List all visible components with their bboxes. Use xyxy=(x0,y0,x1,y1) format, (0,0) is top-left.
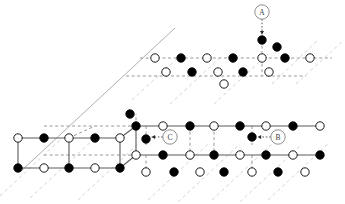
atom-r1-1 xyxy=(151,54,159,62)
atom-m1-6 xyxy=(262,122,270,130)
atom-r2-1 xyxy=(162,68,170,76)
atom-m1-3 xyxy=(186,122,194,130)
atom-m1-7 xyxy=(289,122,297,130)
callout-label-b: B xyxy=(275,133,280,142)
atom-m2-6 xyxy=(262,151,270,159)
figure-root: ABC xyxy=(0,0,345,204)
atom-m2-4 xyxy=(210,151,218,159)
callout-b: B xyxy=(258,130,285,144)
atom-m1-8 xyxy=(316,122,324,130)
guide-line-diag-upper-2 xyxy=(170,56,222,104)
callout-arrowhead-b xyxy=(258,135,261,139)
guide-line-diag-upper-5 xyxy=(296,40,344,84)
guide-line-diag-faint-3 xyxy=(78,142,140,200)
atom-m3-4 xyxy=(220,168,228,176)
callout-label-a: A xyxy=(259,8,265,17)
atom-r1-7 xyxy=(306,54,314,62)
lattice-diagram: ABC xyxy=(0,0,345,204)
atom-r1-6 xyxy=(281,54,289,62)
atom-m3-3 xyxy=(196,168,204,176)
guide-line-upper-solid-edge xyxy=(20,28,175,172)
atom-r2-5 xyxy=(265,68,273,76)
atom-m2-5 xyxy=(236,151,244,159)
atom-r2-2 xyxy=(188,68,196,76)
atom-r2-4 xyxy=(239,68,247,76)
atom-m3-7 xyxy=(301,168,309,176)
atom-m2-2 xyxy=(159,151,167,159)
atom-m1-1 xyxy=(132,122,140,130)
atom-a-upper-right-dark xyxy=(273,43,281,51)
atom-m3-5 xyxy=(248,168,256,176)
atom-b-target-dark xyxy=(248,133,256,141)
atom-m2-8 xyxy=(316,151,324,159)
atom-r1-3 xyxy=(203,54,211,62)
atom-l1-3 xyxy=(65,134,73,142)
atom-r1-2 xyxy=(177,54,185,62)
atom-m1-5 xyxy=(236,122,244,130)
callout-a: A xyxy=(255,5,269,35)
atom-l1-5 xyxy=(116,134,124,142)
atom-l2-1 xyxy=(14,164,22,172)
atom-r3-1 xyxy=(220,80,228,88)
atom-m3-2 xyxy=(170,168,178,176)
callout-c: C xyxy=(152,130,178,144)
atom-m2-7 xyxy=(289,151,297,159)
guide-line-diag-upper-1 xyxy=(132,56,180,100)
atom-l1-4 xyxy=(91,134,99,142)
atom-m2-3 xyxy=(186,151,194,159)
callout-arrowhead-c xyxy=(152,135,155,139)
callout-arrowhead-a xyxy=(260,31,264,34)
atom-m3-6 xyxy=(274,168,282,176)
atom-l1-1 xyxy=(14,134,22,142)
atom-r2-3 xyxy=(214,68,222,76)
atom-m1-4 xyxy=(210,122,218,130)
atom-m3-1 xyxy=(142,168,150,176)
atom-r1-4 xyxy=(229,54,237,62)
callout-label-c: C xyxy=(167,133,172,142)
atom-a-top-dark-A xyxy=(258,36,266,44)
atom-l2-5 xyxy=(116,164,124,172)
atom-m2-1 xyxy=(132,151,140,159)
atom-r1-5 xyxy=(258,54,266,62)
atom-m1-2 xyxy=(159,122,167,130)
atom-edge-right-extra xyxy=(126,110,134,118)
atom-c-target-dark xyxy=(142,135,150,143)
atom-l2-4 xyxy=(91,164,99,172)
atom-l2-2 xyxy=(40,164,48,172)
atom-l1-2 xyxy=(40,134,48,142)
atom-l2-3 xyxy=(65,164,73,172)
